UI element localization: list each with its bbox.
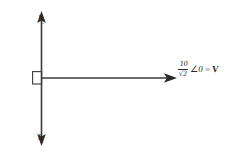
axis-label-ic-subscript: C [41,19,45,25]
axis-label-il-subscript: L [41,138,44,144]
phasor-diagram-svg [0,0,236,158]
fraction-numerator: 10 [178,60,189,69]
axis-label-il: IL [38,134,44,144]
fraction-denominator: √2 [177,70,188,79]
phase-angle-text: ∠0 [190,64,204,74]
voltage-phasor-symbol: V [212,64,220,74]
axis-label-ic: IC [38,15,44,25]
phasor-voltage-expression: 10 √2 ∠0 = V [178,60,219,78]
equals-sign: = [205,64,211,74]
phasor-diagram-canvas: IC IL 10 √2 ∠0 = V [0,0,236,158]
voltage-magnitude-fraction: 10 √2 [177,60,189,78]
right-angle-marker-icon [33,72,42,84]
